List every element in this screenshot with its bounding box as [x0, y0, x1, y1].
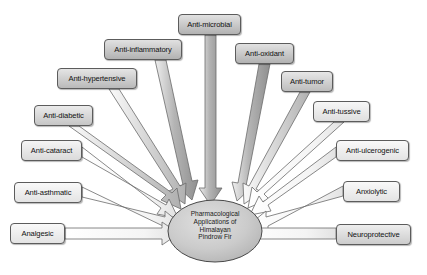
node-anti-hypertensive[interactable]: Anti-hypertensive: [57, 68, 137, 89]
node-neuroprotective[interactable]: Neuroprotective: [336, 224, 411, 245]
hub-ellipse: [168, 200, 262, 262]
arrow-anti-inflammatory: [155, 60, 198, 200]
node-label: Anti-oxidant: [245, 50, 284, 58]
node-label: Anxiolytic: [356, 188, 387, 196]
node-label: Anti-tussive: [322, 108, 360, 116]
node-analgesic[interactable]: Analgesic: [10, 223, 65, 244]
node-label: Anti-cataract: [31, 147, 72, 155]
node-label: Anti-ulcerogenic: [346, 147, 399, 155]
arrow-anti-ulcerogenic: [250, 147, 336, 215]
arrow-anti-cataract: [82, 147, 178, 218]
node-label: Anti-tumor: [290, 78, 324, 86]
node-anti-tussive[interactable]: Anti-tussive: [313, 101, 370, 122]
node-anti-tumor[interactable]: Anti-tumor: [281, 71, 333, 92]
node-anti-cataract[interactable]: Anti-cataract: [21, 140, 82, 161]
node-label: Anti-inflammatory: [114, 46, 171, 54]
node-anti-asthmatic[interactable]: Anti-asthmatic: [14, 182, 82, 203]
node-anti-oxidant[interactable]: Anti-oxidant: [235, 43, 294, 64]
arrow-analgesic: [65, 222, 179, 245]
arrow-anti-oxidant: [232, 64, 270, 201]
diagram-canvas: Pharmacological Applications of Himalaya…: [0, 0, 427, 275]
node-anti-microbial[interactable]: Anti-microbial: [178, 14, 241, 35]
node-anti-ulcerogenic[interactable]: Anti-ulcerogenic: [336, 140, 409, 161]
node-label: Anti-diabetic: [43, 112, 84, 120]
node-anxiolytic[interactable]: Anxiolytic: [343, 181, 400, 202]
node-anti-inflammatory[interactable]: Anti-inflammatory: [104, 39, 182, 60]
node-label: Anti-asthmatic: [25, 189, 72, 197]
node-label: Anti-microbial: [187, 21, 232, 29]
node-label: Neuroprotective: [347, 231, 399, 239]
node-label: Anti-hypertensive: [69, 75, 126, 83]
node-label: Analgesic: [21, 230, 53, 238]
arrow-anti-microbial: [199, 35, 222, 205]
node-anti-diabetic[interactable]: Anti-diabetic: [34, 105, 93, 126]
